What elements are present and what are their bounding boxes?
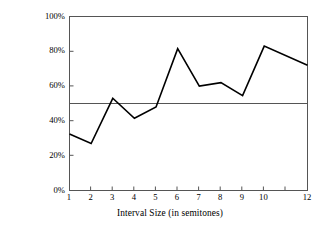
x-tick-label-7: 7 bbox=[188, 192, 210, 202]
x-tick-label-1: 1 bbox=[58, 192, 80, 202]
x-tick-label-5: 5 bbox=[144, 192, 166, 202]
x-tick-label-2: 2 bbox=[80, 192, 102, 202]
chart-figure: Proportion of Intervals Followed by a Ch… bbox=[0, 0, 326, 233]
x-tick-label-3: 3 bbox=[101, 192, 123, 202]
x-tick-label-12: 12 bbox=[296, 192, 318, 202]
x-axis-tick-labels: 1 2 3 4 5 6 7 8 9 10 12 bbox=[0, 0, 326, 233]
x-axis-title: Interval Size (in semitones) bbox=[0, 208, 326, 218]
x-axis-title-text: Interval Size (in semitones) bbox=[117, 208, 223, 218]
x-tick-label-10: 10 bbox=[252, 192, 274, 202]
x-tick-label-9: 9 bbox=[231, 192, 253, 202]
x-tick-label-4: 4 bbox=[123, 192, 145, 202]
x-tick-label-6: 6 bbox=[166, 192, 188, 202]
x-tick-label-8: 8 bbox=[209, 192, 231, 202]
